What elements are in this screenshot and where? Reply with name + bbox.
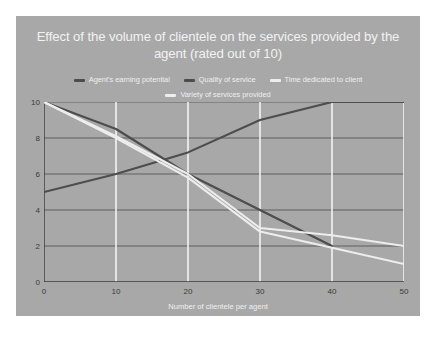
x-tick-label: 30: [256, 287, 265, 296]
legend-label: Quality of service: [199, 74, 256, 86]
legend-swatch-icon: [165, 94, 176, 97]
legend-item-variety-of-services-provided[interactable]: Variety of services provided: [165, 89, 270, 101]
y-tick-label: 2: [36, 242, 40, 251]
y-tick-label: 4: [36, 206, 40, 215]
legend-label: Time dedicated to client: [285, 74, 363, 86]
series-line-3: [44, 102, 404, 264]
legend-item-agents-earning-potential[interactable]: Agent's earning potential: [74, 74, 170, 86]
y-tick-label: 8: [36, 134, 40, 143]
chart-legend: Agent's earning potential Quality of ser…: [26, 74, 410, 101]
x-axis-label: Number of clientele per agent: [26, 302, 410, 311]
chart-canvas: Effect of the volume of clientele on the…: [16, 16, 420, 316]
plot-area: 0246810 01020304050: [44, 102, 404, 282]
y-tick-label: 10: [31, 98, 40, 107]
legend-row-2: Variety of services provided: [26, 89, 410, 101]
plot-svg: [44, 102, 404, 282]
legend-label: Agent's earning potential: [89, 74, 170, 86]
legend-item-quality-of-service[interactable]: Quality of service: [184, 74, 256, 86]
legend-swatch-icon: [74, 79, 85, 82]
x-tick-label: 10: [112, 287, 121, 296]
x-tick-label: 50: [400, 287, 409, 296]
series-line-0: [44, 102, 404, 192]
x-tick-label: 20: [184, 287, 193, 296]
legend-item-time-dedicated-to-client[interactable]: Time dedicated to client: [270, 74, 363, 86]
legend-label: Variety of services provided: [180, 89, 270, 101]
y-tick-label: 6: [36, 170, 40, 179]
x-tick-label: 40: [328, 287, 337, 296]
chart-page: Effect of the volume of clientele on the…: [0, 0, 436, 350]
chart-title: Effect of the volume of clientele on the…: [26, 28, 410, 62]
y-tick-label: 0: [36, 278, 40, 287]
x-tick-label: 0: [42, 287, 46, 296]
legend-swatch-icon: [270, 79, 281, 82]
legend-row-1: Agent's earning potential Quality of ser…: [26, 74, 410, 86]
legend-swatch-icon: [184, 79, 195, 82]
series-lines: [44, 102, 404, 264]
